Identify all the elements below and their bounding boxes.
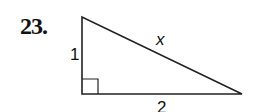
right-angle-marker <box>82 79 98 94</box>
horizontal-leg-label: 2 <box>157 99 166 112</box>
hypotenuse-label: x <box>156 31 165 48</box>
vertical-leg-label: 1 <box>70 46 79 63</box>
triangle-outline <box>82 17 242 94</box>
right-triangle-figure <box>0 0 258 112</box>
